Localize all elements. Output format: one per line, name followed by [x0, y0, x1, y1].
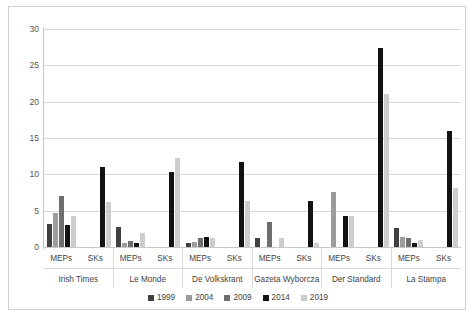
legend-item[interactable]: 2004	[186, 293, 213, 302]
bar	[267, 222, 272, 247]
legend-swatch-icon	[224, 295, 230, 301]
bar-subgroup	[287, 29, 322, 247]
legend-item[interactable]: 2014	[263, 293, 290, 302]
bar	[47, 224, 52, 247]
bar	[210, 238, 215, 247]
subgroup-label: MEPs	[392, 254, 427, 263]
bar	[245, 201, 250, 247]
bar-subgroup	[79, 29, 114, 247]
subgroup-label: SKs	[287, 254, 321, 263]
group-label: La Stampa	[392, 268, 462, 289]
bar	[175, 158, 180, 247]
subgroup-label: SKs	[356, 254, 390, 263]
bar-subgroup	[253, 29, 288, 247]
legend-item[interactable]: 2009	[224, 293, 251, 302]
plot-area: 051015202530	[44, 29, 461, 247]
bar	[400, 237, 405, 247]
bar	[116, 227, 121, 247]
bar	[106, 202, 111, 247]
category-group: MEPsSKsIrish Times	[44, 248, 114, 288]
bar	[331, 192, 336, 247]
group-label: Le Monde	[114, 268, 183, 289]
subgroup-label: SKs	[148, 254, 182, 263]
subgroup-label: MEPs	[183, 254, 217, 263]
group-label: Der Standard	[322, 268, 391, 289]
legend-label: 2009	[233, 293, 251, 302]
bar-group	[253, 29, 323, 247]
subgroup-label: SKs	[217, 254, 251, 263]
bar-group	[44, 29, 114, 247]
bar	[140, 233, 145, 247]
category-group: MEPsSKsDer Standard	[322, 248, 392, 288]
bar-subgroup	[357, 29, 392, 247]
bar-subgroup	[218, 29, 253, 247]
bar	[349, 216, 354, 247]
subgroup-label: SKs	[78, 254, 112, 263]
bar-group	[322, 29, 392, 247]
bar	[406, 238, 411, 247]
y-axis-tick-label: 20	[30, 97, 39, 107]
group-label: De Volkskrant	[183, 268, 252, 289]
y-axis-tick-label: 10	[30, 169, 39, 179]
y-axis-tick-label: 0	[34, 242, 39, 252]
legend-swatch-icon	[148, 295, 154, 301]
bar-subgroup	[322, 29, 357, 247]
y-axis-tick-label: 5	[34, 206, 39, 216]
subgroup-label: MEPs	[322, 254, 356, 263]
legend-label: 2004	[195, 293, 213, 302]
bar	[204, 237, 209, 247]
group-label: Gazeta Wyborcza	[253, 268, 322, 289]
bar	[239, 162, 244, 247]
subgroup-label: MEPs	[253, 254, 287, 263]
category-group: MEPsSKsLe Monde	[114, 248, 184, 288]
bar	[378, 48, 383, 247]
bar	[53, 213, 58, 247]
bar-group	[392, 29, 462, 247]
bar	[198, 238, 203, 247]
legend-swatch-icon	[301, 295, 307, 301]
legend-swatch-icon	[186, 295, 192, 301]
bar-group	[114, 29, 184, 247]
legend-swatch-icon	[263, 295, 269, 301]
bar	[71, 216, 76, 247]
bar	[447, 131, 452, 247]
legend-label: 2019	[310, 293, 328, 302]
legend-label: 2014	[272, 293, 290, 302]
y-axis-tick-label: 15	[30, 133, 39, 143]
group-label: Irish Times	[44, 268, 113, 289]
bar	[308, 201, 313, 248]
bar-subgroup	[426, 29, 461, 247]
bar-subgroup	[183, 29, 218, 247]
bar	[59, 196, 64, 247]
subgroup-label: MEPs	[44, 254, 78, 263]
chart-frame: 051015202530 MEPsSKsIrish TimesMEPsSKsLe…	[8, 6, 466, 310]
y-axis-tick-label: 25	[30, 60, 39, 70]
category-group: MEPsSKsGazeta Wyborcza	[253, 248, 323, 288]
legend-item[interactable]: 2019	[301, 293, 328, 302]
x-axis-categories: MEPsSKsIrish TimesMEPsSKsLe MondeMEPsSKs…	[44, 247, 461, 287]
category-group: MEPsSKsDe Volkskrant	[183, 248, 253, 288]
legend-label: 1999	[157, 293, 175, 302]
bar	[394, 228, 399, 247]
bar	[255, 238, 260, 247]
bar	[100, 167, 105, 247]
bar-subgroup	[44, 29, 79, 247]
subgroup-label: MEPs	[114, 254, 148, 263]
bar	[169, 172, 174, 247]
y-axis-tick-label: 30	[30, 24, 39, 34]
category-group: MEPsSKsLa Stampa	[392, 248, 462, 288]
bar-subgroup	[114, 29, 149, 247]
subgroup-label: SKs	[426, 254, 461, 263]
bar-group	[183, 29, 253, 247]
chart-legend: 19992004200920142019	[9, 293, 467, 302]
bar	[279, 238, 284, 247]
bar-subgroup	[148, 29, 183, 247]
bar	[65, 225, 70, 247]
bar-subgroup	[392, 29, 427, 247]
bar	[453, 188, 458, 247]
legend-item[interactable]: 1999	[148, 293, 175, 302]
bar	[384, 94, 389, 247]
bar	[343, 216, 348, 247]
